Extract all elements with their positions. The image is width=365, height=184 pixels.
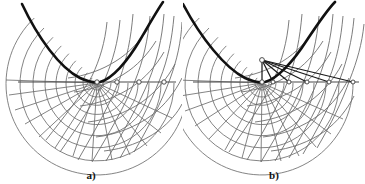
concentric-arcs-b — [183, 18, 353, 175]
radial-lines-a — [6, 80, 172, 161]
parabola-b — [183, 2, 335, 82]
caption-panel-b: b) — [183, 169, 365, 181]
panel-a-canvas — [0, 0, 182, 184]
panel-b-canvas — [183, 0, 365, 184]
fan-triangle-b — [262, 60, 353, 82]
cross-grid-a — [68, 29, 182, 151]
parabola-a — [22, 2, 163, 82]
panel-a: a) — [0, 0, 182, 184]
figure-container: a) — [0, 0, 365, 184]
panel-b: b) — [183, 0, 365, 184]
caption-panel-a: a) — [0, 169, 182, 181]
